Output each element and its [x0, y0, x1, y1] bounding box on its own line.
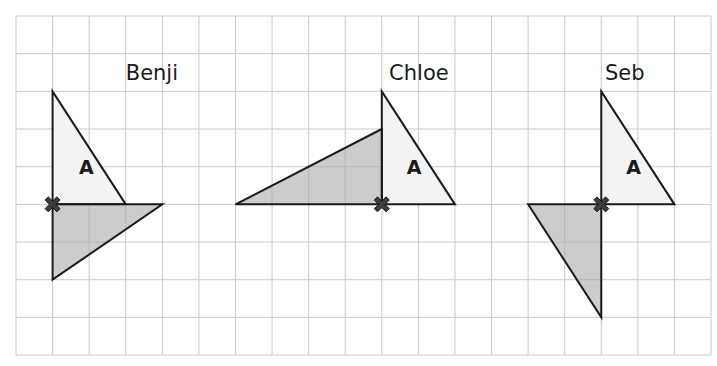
panel-seb: Seb A: [528, 61, 674, 317]
rotation-diagram: Benji A Chloe A Seb A: [0, 0, 717, 366]
panel-benji: Benji A: [45, 61, 178, 280]
shape-a-label: A: [407, 156, 422, 178]
student-name-label: Seb: [605, 61, 645, 85]
shape-a-label: A: [626, 156, 641, 178]
student-name-label: Benji: [126, 61, 178, 85]
shape-a-label: A: [79, 156, 94, 178]
student-name-label: Chloe: [389, 61, 449, 85]
diagram-canvas: Benji A Chloe A Seb A: [0, 0, 717, 366]
